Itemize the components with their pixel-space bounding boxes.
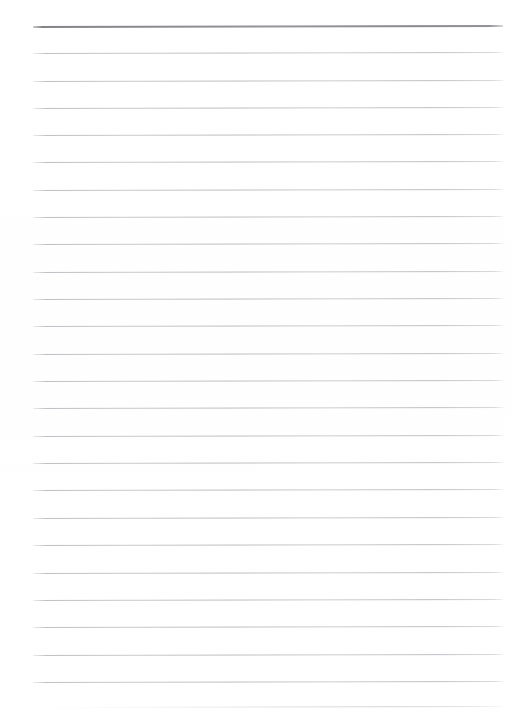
ruled-line <box>33 107 503 109</box>
ruled-line <box>33 544 503 546</box>
ruled-line-ink <box>33 298 503 300</box>
ruled-line-ink <box>33 189 503 191</box>
ruled-line <box>33 380 503 382</box>
ruled-line-ink <box>33 325 503 327</box>
ruled-line-ink <box>33 572 503 574</box>
ruled-line <box>33 243 503 245</box>
ruled-line <box>33 517 503 519</box>
ruled-line-ink <box>33 25 503 28</box>
ruled-line <box>33 52 503 54</box>
ruled-line <box>33 572 503 574</box>
ruled-line <box>33 681 503 683</box>
ruled-line-ink <box>33 134 503 136</box>
ruled-line-ink <box>33 52 503 54</box>
ruled-line <box>33 271 503 273</box>
ruled-line-ink <box>33 654 503 656</box>
ruled-line <box>33 80 503 82</box>
ruled-line <box>33 189 503 191</box>
ruled-line-ink <box>33 243 503 245</box>
ruled-line-ink <box>33 681 503 683</box>
ruled-line-ink <box>33 706 503 708</box>
ruled-line-ink <box>33 353 503 355</box>
ruled-line <box>33 134 503 136</box>
ruled-line-ink <box>33 216 503 218</box>
ruled-line <box>33 325 503 327</box>
ruled-line <box>33 462 503 464</box>
ruled-line-ink <box>33 161 503 163</box>
ruled-line <box>33 407 503 409</box>
ruled-line <box>33 353 503 355</box>
ruled-line <box>33 599 503 601</box>
scanned-page <box>0 0 511 712</box>
ruled-line <box>33 25 503 28</box>
ruled-line-ink <box>33 407 503 409</box>
ruled-line-ink <box>33 462 503 464</box>
ruled-line-ink <box>33 80 503 82</box>
ruled-line-ink <box>33 626 503 628</box>
ruled-line <box>33 435 503 437</box>
ruled-line-ink <box>33 380 503 382</box>
ruled-line <box>33 654 503 656</box>
paper-surface <box>0 0 511 712</box>
ruled-line-ink <box>33 271 503 273</box>
ruled-line-ink <box>33 517 503 519</box>
ruled-line <box>33 489 503 491</box>
ruled-line-ink <box>33 489 503 491</box>
ruled-line-ink <box>33 599 503 601</box>
ruled-line <box>33 161 503 163</box>
ruled-line-ink <box>33 544 503 546</box>
ruled-line-ink <box>33 107 503 109</box>
ruled-line-ink <box>33 435 503 437</box>
ruled-line <box>33 216 503 218</box>
ruled-line <box>33 626 503 628</box>
ruled-line <box>33 706 503 708</box>
ruled-line <box>33 298 503 300</box>
